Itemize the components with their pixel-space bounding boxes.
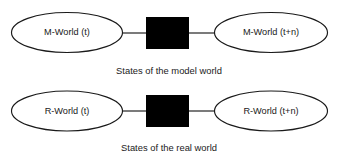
state-label-model-start: M-World (t) bbox=[44, 27, 90, 37]
transition-box-model[interactable] bbox=[147, 18, 189, 49]
diagram-canvas: M-World (t) M-World (t+n) States of the … bbox=[0, 0, 338, 161]
state-label-real-start: R-World (t) bbox=[45, 106, 90, 116]
real-world-row: R-World (t) R-World (t+n) States of the … bbox=[12, 91, 328, 153]
model-world-row: M-World (t) M-World (t+n) States of the … bbox=[12, 13, 328, 76]
caption-model-world: States of the model world bbox=[116, 65, 222, 76]
state-label-real-end: R-World (t+n) bbox=[243, 106, 298, 116]
caption-real-world: States of the real world bbox=[121, 142, 217, 153]
transition-box-real[interactable] bbox=[147, 96, 189, 127]
diagram-root: M-World (t) M-World (t+n) States of the … bbox=[0, 0, 338, 161]
state-label-model-end: M-World (t+n) bbox=[243, 27, 299, 37]
